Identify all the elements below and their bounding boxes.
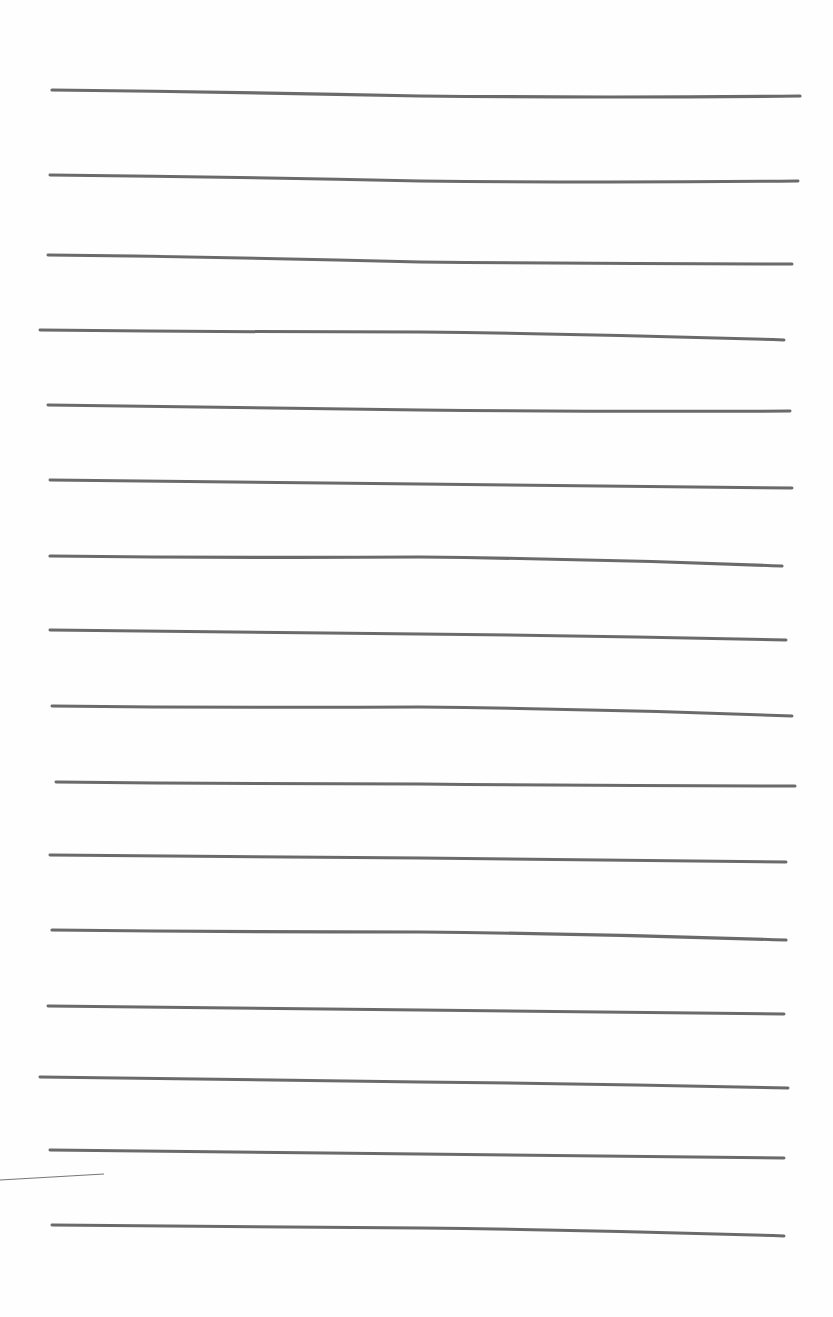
ruled-line-8 [50, 630, 786, 640]
ruled-line-15 [50, 1150, 784, 1158]
ruled-lines [0, 0, 833, 1317]
ruled-line-12 [52, 930, 786, 940]
ruled-line-5 [48, 405, 790, 411]
ruled-line-3 [48, 255, 792, 264]
ruled-line-10 [56, 782, 795, 786]
ruled-line-13 [48, 1006, 784, 1014]
ruled-line-9 [52, 706, 792, 716]
ruled-line-16 [52, 1225, 784, 1236]
ruled-line-6 [50, 480, 792, 488]
stray-pen-mark [0, 1174, 104, 1180]
lined-paper-page [0, 0, 833, 1317]
ruled-line-11 [50, 855, 786, 862]
ruled-line-4 [40, 330, 784, 340]
ruled-line-1 [52, 90, 800, 97]
ruled-line-2 [50, 175, 798, 182]
ruled-line-7 [50, 556, 782, 566]
ruled-line-14 [40, 1077, 788, 1088]
